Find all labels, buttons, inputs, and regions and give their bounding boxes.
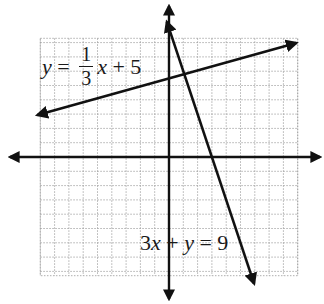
label-plus-5: + 5 [107, 56, 141, 78]
label-plus: + [161, 230, 184, 255]
label-equals: = [52, 56, 75, 78]
label-y: y [42, 56, 52, 78]
fraction-numerator: 1 [79, 44, 93, 67]
label-coef: 3 [140, 230, 151, 255]
equation-label-line1: y = 1 3 x + 5 [42, 44, 141, 89]
label-y: y [184, 230, 194, 255]
label-x: x [151, 230, 161, 255]
fraction: 1 3 [79, 44, 93, 89]
equation-label-line2: 3x + y = 9 [140, 232, 228, 254]
label-x: x [97, 56, 107, 78]
fraction-denominator: 3 [81, 67, 91, 89]
label-equals-9: = 9 [194, 230, 228, 255]
